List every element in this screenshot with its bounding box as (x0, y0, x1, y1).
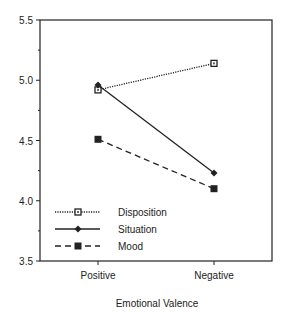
x-tick-label: Negative (194, 270, 234, 281)
legend-item-disposition: Disposition (55, 207, 167, 218)
series-line (98, 63, 214, 90)
series-situation (95, 82, 218, 177)
legend-item-situation: Situation (55, 224, 157, 235)
x-tick-label: Positive (80, 270, 115, 281)
filled-square-marker (211, 185, 218, 192)
diamond-marker (75, 226, 82, 233)
y-tick-label: 5.0 (19, 75, 33, 86)
series-line (98, 139, 214, 188)
marker-center (213, 62, 215, 64)
series-lines (95, 60, 218, 192)
y-tick-label: 4.0 (19, 196, 33, 207)
legend: DispositionSituationMood (55, 207, 167, 252)
y-tick-label: 5.5 (19, 15, 33, 26)
line-chart: 3.54.04.55.05.5 PositiveNegative Disposi… (0, 0, 287, 312)
x-axis-label: Emotional Valence (116, 298, 199, 309)
marker-center (77, 211, 79, 213)
y-tick-label: 3.5 (19, 256, 33, 267)
series-mood (95, 136, 218, 192)
series-disposition (95, 60, 217, 93)
y-tick-label: 4.5 (19, 136, 33, 147)
filled-square-marker (95, 136, 102, 143)
y-axis: 3.54.04.55.05.5 (19, 15, 40, 267)
legend-label: Disposition (118, 207, 167, 218)
x-axis: PositiveNegative (80, 261, 234, 281)
marker-center (97, 89, 99, 91)
legend-label: Mood (118, 241, 143, 252)
filled-square-marker (75, 243, 82, 250)
series-line (98, 85, 214, 173)
legend-label: Situation (118, 224, 157, 235)
legend-item-mood: Mood (55, 241, 143, 252)
